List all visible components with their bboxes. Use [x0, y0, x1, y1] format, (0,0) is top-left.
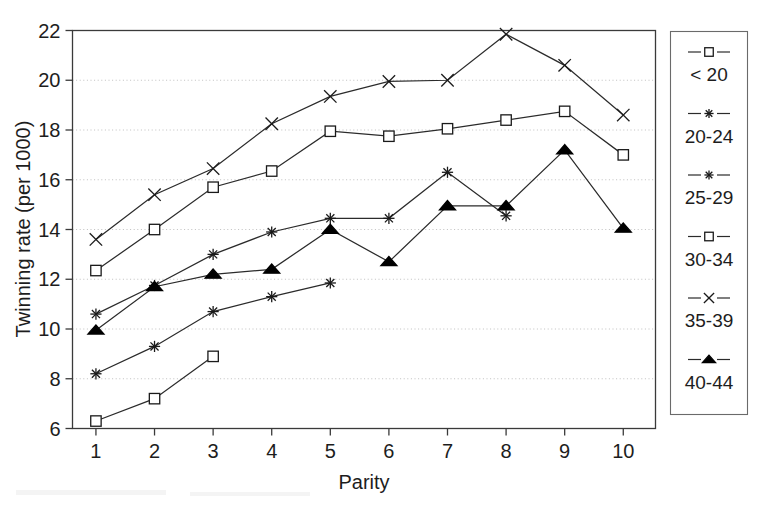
data-point--20-parity-2 — [149, 393, 159, 403]
data-point-30-34-parity-3 — [208, 182, 218, 192]
data-point-20-24-parity-5 — [325, 277, 336, 288]
x-tick-label-3: 3 — [208, 440, 219, 462]
legend-label: 30-34 — [685, 249, 734, 270]
y-tick-label-14: 14 — [38, 219, 60, 241]
legend-label: 35-39 — [685, 310, 734, 331]
x-tick-label-10: 10 — [612, 440, 634, 462]
data-point-25-29-parity-1 — [90, 308, 101, 319]
data-point-30-34-parity-6 — [384, 131, 394, 141]
data-point-25-29-parity-5 — [325, 213, 336, 224]
data-point--20-parity-1 — [91, 416, 101, 426]
x-tick-label-1: 1 — [90, 440, 101, 462]
data-point-30-34-parity-5 — [325, 126, 335, 136]
x-tick-label-8: 8 — [501, 440, 512, 462]
data-point--20-parity-3 — [208, 351, 218, 361]
data-point-25-29-parity-8 — [500, 210, 511, 221]
legend-label: < 20 — [690, 64, 728, 85]
legend-marker-open-square-icon — [705, 48, 714, 57]
data-point-20-24-parity-3 — [208, 306, 219, 317]
legend-marker-open-square-icon — [705, 232, 714, 241]
data-point-20-24-parity-2 — [149, 341, 160, 352]
data-point-25-29-parity-4 — [266, 226, 277, 237]
chart-canvas: 6810121416182022 12345678910 Twinning ra… — [0, 0, 758, 506]
data-point-25-29-parity-7 — [442, 167, 453, 178]
y-tick-label-6: 6 — [49, 418, 60, 440]
y-tick-label-16: 16 — [38, 169, 60, 191]
x-tick-label-4: 4 — [266, 440, 277, 462]
legend-marker-asterisk-icon — [704, 109, 713, 118]
y-tick-label-18: 18 — [38, 119, 60, 141]
y-axis-title: Twinning rate (per 1000) — [12, 121, 34, 338]
x-tick-label-6: 6 — [383, 440, 394, 462]
data-point-25-29-parity-6 — [383, 213, 394, 224]
chart-background — [0, 0, 758, 506]
data-point-20-24-parity-4 — [266, 291, 277, 302]
data-point-30-34-parity-2 — [149, 224, 159, 234]
y-tick-label-8: 8 — [49, 368, 60, 390]
legend-marker-asterisk-icon — [704, 170, 713, 179]
y-tick-label-10: 10 — [38, 318, 60, 340]
legend-label: 25-29 — [685, 187, 734, 208]
y-tick-label-12: 12 — [38, 268, 60, 290]
data-point-30-34-parity-8 — [501, 115, 511, 125]
legend-label: 20-24 — [685, 126, 734, 147]
y-tick-label-20: 20 — [38, 69, 60, 91]
data-point-30-34-parity-7 — [442, 124, 452, 134]
x-tick-label-7: 7 — [442, 440, 453, 462]
data-point-30-34-parity-4 — [267, 166, 277, 176]
data-point-20-24-parity-1 — [90, 368, 101, 379]
data-point-25-29-parity-3 — [208, 249, 219, 260]
x-axis-title: Parity — [338, 471, 389, 493]
data-point-30-34-parity-9 — [559, 106, 569, 116]
data-point-30-34-parity-10 — [618, 150, 628, 160]
y-tick-label-22: 22 — [38, 20, 60, 42]
twinning-rate-by-parity-chart: 6810121416182022 12345678910 Twinning ra… — [0, 0, 758, 506]
legend: < 2020-2425-2930-3435-3940-44 — [671, 32, 748, 415]
x-tick-label-2: 2 — [149, 440, 160, 462]
legend-label: 40-44 — [685, 372, 734, 393]
x-tick-label-5: 5 — [325, 440, 336, 462]
data-point-30-34-parity-1 — [91, 265, 101, 275]
x-tick-label-9: 9 — [559, 440, 570, 462]
